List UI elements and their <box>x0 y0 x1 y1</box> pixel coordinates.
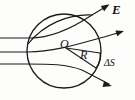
field-line-bottom-arrowhead <box>103 81 112 87</box>
radius-label-R: R <box>80 49 87 61</box>
field-line-top <box>0 4 110 38</box>
field-line-middle-arrowhead <box>115 31 124 37</box>
field-line-top-path <box>0 6 107 38</box>
figure-container: E O R ΔS <box>0 0 135 100</box>
area-element-label-delta-s: ΔS <box>104 58 115 68</box>
center-label-O: O <box>60 38 69 50</box>
field-line-top-arrowhead <box>101 4 110 11</box>
field-label-E: E <box>112 3 121 16</box>
